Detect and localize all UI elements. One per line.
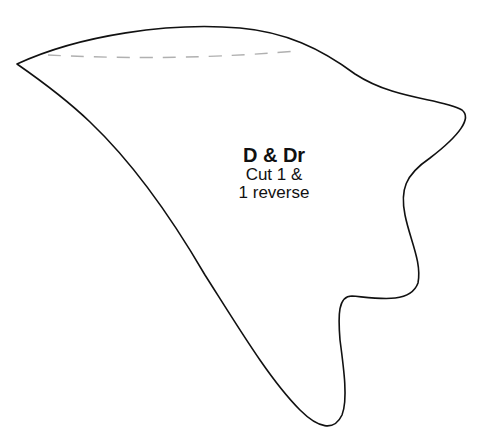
pattern-piece-shape <box>0 0 482 434</box>
cut-instruction-line-2: 1 reverse <box>214 184 334 202</box>
seam-line-dashed <box>48 51 297 58</box>
cut-instruction-line-1: Cut 1 & <box>214 166 334 184</box>
piece-label: D & Dr <box>214 144 334 166</box>
pattern-template-page: D & Dr Cut 1 & 1 reverse <box>0 0 482 434</box>
piece-outline <box>17 27 465 426</box>
piece-label-block: D & Dr Cut 1 & 1 reverse <box>214 144 334 202</box>
